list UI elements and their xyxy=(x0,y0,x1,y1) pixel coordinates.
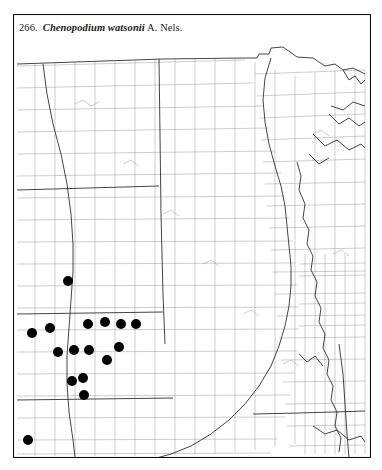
map-canvas xyxy=(13,14,371,458)
base-map-svg xyxy=(13,14,371,458)
distribution-map-page: 266.Chenopodium watsonii A. Nels. xyxy=(0,0,382,470)
map-frame-border xyxy=(14,15,371,458)
state-boundaries xyxy=(17,47,365,458)
